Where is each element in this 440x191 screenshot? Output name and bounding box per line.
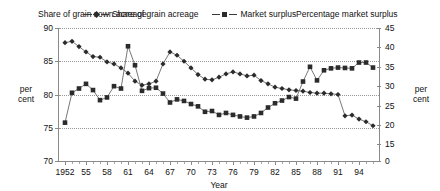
- x-tick-major: [233, 162, 234, 165]
- square-marker: [168, 100, 173, 105]
- square-marker: [140, 89, 145, 94]
- square-marker: [203, 109, 208, 114]
- diamond-marker: [279, 86, 284, 91]
- square-marker: [77, 86, 82, 91]
- x-tick-minor: [121, 162, 122, 164]
- x-tick-major: [86, 162, 87, 165]
- x-tick-minor: [219, 162, 220, 164]
- square-marker: [280, 98, 285, 103]
- diamond-marker: [104, 59, 109, 64]
- x-tick-minor: [198, 162, 199, 164]
- square-marker: [343, 66, 348, 71]
- square-marker: [224, 111, 229, 116]
- diamond-marker: [370, 123, 375, 128]
- square-marker: [357, 60, 362, 65]
- x-axis-title: Year: [58, 180, 380, 190]
- x-tick-label: 70: [186, 167, 195, 177]
- diamond-marker: [237, 71, 242, 76]
- chart-figure: Share of grain sown acreage Percentage m…: [0, 0, 440, 191]
- right-axis-unit-label: per cent: [408, 85, 434, 104]
- x-tick-major: [296, 162, 297, 165]
- right-tick-label: 40: [385, 42, 405, 52]
- square-marker: [70, 90, 75, 95]
- x-tick-label: 82: [270, 167, 279, 177]
- diamond-marker: [300, 89, 305, 94]
- x-tick-label: 88: [312, 167, 321, 177]
- square-marker: [133, 63, 138, 68]
- x-tick-minor: [324, 162, 325, 164]
- x-tick-minor: [366, 162, 367, 164]
- x-tick-minor: [289, 162, 290, 164]
- diamond-marker: [342, 113, 347, 118]
- diamond-marker: [97, 55, 102, 60]
- x-tick-label: 79: [249, 167, 258, 177]
- x-tick-minor: [240, 162, 241, 164]
- x-tick-minor: [177, 162, 178, 164]
- right-tick-mark: [377, 161, 381, 162]
- x-tick-label: 67: [165, 167, 174, 177]
- right-unit-line2: cent: [413, 94, 429, 104]
- square-marker: [238, 114, 243, 119]
- square-marker: [350, 66, 355, 71]
- x-tick-minor: [310, 162, 311, 164]
- square-marker: [245, 115, 250, 120]
- square-marker: [84, 82, 89, 87]
- x-tick-minor: [268, 162, 269, 164]
- diamond-marker: [244, 73, 249, 78]
- right-tick-label: 45: [385, 23, 405, 33]
- diamond-marker: [293, 88, 298, 93]
- x-tick-label: 73: [207, 167, 216, 177]
- square-marker: [161, 91, 166, 96]
- x-tick-label: 55: [81, 167, 90, 177]
- x-tick-label: 85: [291, 167, 300, 177]
- x-tick-minor: [184, 162, 185, 164]
- right-tick-label: 20: [385, 120, 405, 130]
- square-marker: [63, 120, 68, 125]
- square-marker: [210, 109, 215, 114]
- square-marker: [189, 102, 194, 107]
- legend-item-market-surplus[interactable]: Market surplus: [212, 9, 296, 19]
- x-tick-label: 1952: [56, 167, 75, 177]
- x-tick-minor: [72, 162, 73, 164]
- diamond-marker: [216, 75, 221, 80]
- left-tick-label: 80: [33, 90, 53, 100]
- x-tick-minor: [79, 162, 80, 164]
- left-unit-line1: per: [20, 84, 32, 94]
- chart-legend: Share of grain acreage Market surplus: [84, 9, 296, 19]
- square-marker: [217, 113, 222, 118]
- right-tick-label: 15: [385, 139, 405, 149]
- legend-label: Share of grain acreage: [112, 9, 198, 19]
- x-tick-major: [65, 162, 66, 165]
- square-marker: [294, 96, 299, 101]
- diamond-marker: [230, 69, 235, 74]
- legend-line-icon: [101, 14, 109, 15]
- left-tick-label: 90: [33, 23, 53, 33]
- square-marker: [175, 97, 180, 102]
- x-tick-minor: [114, 162, 115, 164]
- x-tick-minor: [142, 162, 143, 164]
- square-marker: [364, 60, 369, 65]
- square-marker: [287, 95, 292, 100]
- x-tick-minor: [247, 162, 248, 164]
- legend-item-share-of-grain-acreage[interactable]: Share of grain acreage: [84, 9, 198, 19]
- diamond-marker-icon: [93, 10, 100, 17]
- diamond-marker: [209, 77, 214, 82]
- diamond-marker: [356, 117, 361, 122]
- x-tick-minor: [100, 162, 101, 164]
- x-tick-major: [212, 162, 213, 165]
- right-axis-title: Percentage market surplus: [296, 9, 398, 19]
- right-unit-line1: per: [415, 84, 427, 94]
- legend-label: Market surplus: [240, 9, 296, 19]
- left-tick-label: 75: [33, 123, 53, 133]
- square-marker: [105, 95, 110, 100]
- legend-line-icon: [84, 14, 92, 15]
- square-marker: [182, 99, 187, 104]
- data-series-layer: [58, 28, 380, 161]
- square-marker: [154, 85, 159, 90]
- square-marker: [329, 66, 334, 71]
- x-tick-label: 64: [144, 167, 153, 177]
- x-tick-minor: [331, 162, 332, 164]
- x-tick-major: [149, 162, 150, 165]
- x-tick-minor: [226, 162, 227, 164]
- right-tick-label: 25: [385, 101, 405, 111]
